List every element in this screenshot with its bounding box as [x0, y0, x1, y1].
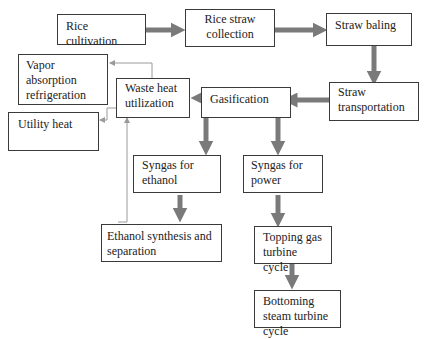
node-straw-transportation: Straw transportation [329, 82, 419, 121]
node-label: Straw baling [335, 18, 396, 32]
node-label: Vapor absorption refrigeration [26, 58, 86, 102]
arrow-wasteheat-utility [100, 108, 116, 120]
node-label: Gasification [210, 92, 269, 106]
node-straw-baling: Straw baling [326, 13, 412, 46]
node-vapor-absorption-refrigeration: Vapor absorption refrigeration [18, 54, 108, 105]
node-label: Straw transportation [338, 85, 405, 114]
node-topping-gas-turbine: Topping gas turbine cycle [254, 226, 332, 264]
node-syngas-for-power: Syngas for power [243, 155, 323, 193]
node-utility-heat: Utility heat [8, 112, 99, 151]
node-label: Utility heat [18, 117, 72, 131]
node-label: Rice cultivation [66, 19, 117, 48]
node-bottoming-steam-turbine: Bottoming steam turbine cycle [254, 290, 341, 328]
node-rice-cultivation: Rice cultivation [57, 14, 146, 45]
node-ethanol-synthesis: Ethanol synthesis and separation [101, 224, 222, 262]
arrow-wasteheat-vapor [110, 63, 152, 78]
node-label: Syngas for ethanol [142, 158, 194, 187]
node-label: Rice straw collection [205, 12, 256, 41]
node-syngas-for-ethanol: Syngas for ethanol [133, 155, 221, 193]
node-label: Syngas for power [251, 158, 303, 187]
arrow-ethanolsynth-wasteheat [118, 118, 127, 222]
node-label: Waste heat utilization [125, 81, 177, 110]
node-gasification: Gasification [201, 87, 291, 118]
node-rice-straw-collection: Rice straw collection [185, 9, 275, 47]
node-label: Ethanol synthesis and separation [107, 229, 212, 258]
node-waste-heat-utilization: Waste heat utilization [116, 78, 190, 118]
